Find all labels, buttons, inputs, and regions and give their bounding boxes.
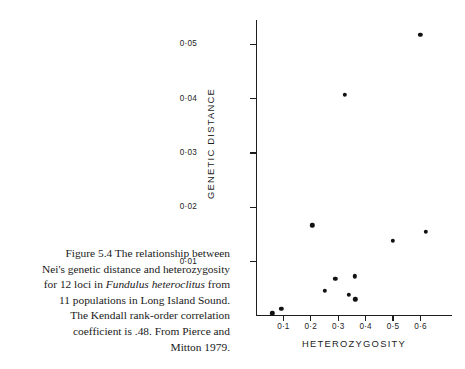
- x-axis-tick: [338, 316, 339, 321]
- scatter-point: [322, 289, 326, 293]
- caption-text: Mitton 1979.: [171, 341, 231, 353]
- caption-line: coefficient is .48. From Pierce and: [8, 324, 230, 340]
- y-axis-tick-label: 0·05: [180, 39, 197, 48]
- caption-line: for 12 loci in Fundulus heteroclitus fro…: [8, 277, 230, 293]
- caption-text: Figure 5.4 The relationship between: [65, 247, 230, 259]
- x-axis-tick-label: 0·1: [277, 322, 289, 331]
- caption-line: Mitton 1979.: [8, 340, 230, 356]
- scatter-point: [279, 307, 283, 311]
- x-axis-tick-label: 0·5: [387, 322, 399, 331]
- x-axis-tick: [365, 316, 366, 321]
- scatter-plot-area: [256, 20, 452, 316]
- figure-5-4: Figure 5.4 The relationship betweenNei's…: [0, 0, 465, 369]
- caption-text: for 12 loci in: [44, 278, 106, 290]
- scatter-point: [424, 230, 428, 234]
- y-axis-line: [256, 20, 257, 316]
- x-axis-tick-label: 0·4: [359, 322, 371, 331]
- x-axis-tick: [420, 316, 421, 321]
- scatter-point: [333, 277, 337, 281]
- caption-line: The Kendall rank-order correlation: [8, 308, 230, 324]
- x-axis-tick-label: 0·2: [305, 322, 317, 331]
- x-axis-line: [256, 315, 452, 316]
- caption-text: coefficient is .48. From Pierce and: [73, 325, 230, 337]
- caption-text: from: [205, 278, 230, 290]
- y-axis-tick-label: 0·04: [180, 94, 197, 103]
- caption-text: 11 populations in Long Island Sound.: [59, 294, 230, 306]
- scatter-point: [391, 239, 395, 243]
- caption-text: Nei's genetic distance and heterozygosit…: [42, 263, 230, 275]
- caption-text: The Kendall rank-order correlation: [70, 309, 230, 321]
- y-axis-title: GENETIC DISTANCE: [205, 88, 216, 199]
- x-axis-tick-label: 0·3: [332, 322, 344, 331]
- y-axis-tick-label: 0·03: [180, 148, 197, 157]
- y-axis-tick: [250, 44, 256, 45]
- scatter-point: [346, 293, 350, 297]
- scatter-point: [353, 297, 357, 301]
- scatter-point: [418, 32, 422, 36]
- x-axis-tick: [283, 316, 284, 321]
- y-axis-tick-label: 0·02: [180, 202, 197, 211]
- y-axis-tick: [250, 98, 256, 99]
- species-name: Fundulus heteroclitus: [106, 278, 205, 290]
- scatter-point: [352, 274, 356, 278]
- scatter-point: [310, 223, 314, 227]
- y-axis-tick: [250, 152, 256, 153]
- x-axis-tick: [392, 316, 393, 321]
- y-axis-tick-label: 0·01: [180, 257, 197, 266]
- x-axis-tick: [310, 316, 311, 321]
- x-axis-tick-label: 0·6: [414, 322, 426, 331]
- y-axis-tick: [250, 207, 256, 208]
- x-axis-title: HETEROZYGOSITY: [256, 338, 452, 349]
- y-axis-tick: [250, 261, 256, 262]
- scatter-point: [343, 93, 347, 97]
- caption-line: 11 populations in Long Island Sound.: [8, 293, 230, 309]
